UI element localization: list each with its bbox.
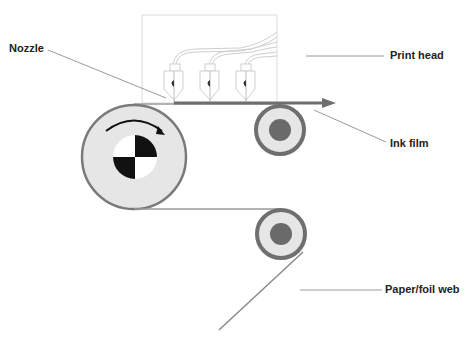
ink-film-leader: [314, 110, 386, 142]
nozzle-label: Nozzle: [9, 42, 44, 54]
nozzle-3: [236, 64, 255, 103]
ink-film-label: Ink film: [390, 137, 429, 149]
main-roller: [82, 105, 186, 209]
nozzle-leader: [48, 50, 166, 98]
paper-web-exit: [219, 252, 303, 330]
nozzle-1: [164, 64, 183, 103]
print-head-label: Print head: [390, 49, 444, 61]
lower-guide-roller: [257, 210, 305, 258]
ink-supply-tubes: [173, 32, 277, 68]
nozzle-2: [200, 64, 219, 103]
upper-guide-roller: [256, 106, 304, 154]
paper-web-label: Paper/foil web: [385, 283, 460, 295]
ink-film-arrow: [174, 98, 336, 108]
